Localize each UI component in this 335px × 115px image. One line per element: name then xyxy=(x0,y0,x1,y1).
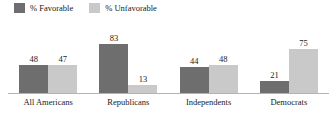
bar-favorable-independents: 44 xyxy=(180,20,209,93)
bar-group-republicans: 83 13 xyxy=(99,20,157,93)
bar-rect xyxy=(128,85,157,93)
chart-legend: % Favorable % Unfavorable xyxy=(14,2,157,14)
bar-rect xyxy=(260,81,289,93)
legend-item-unfavorable: % Unfavorable xyxy=(89,3,157,13)
category-axis-labels: All Americans Republicans Independents D… xyxy=(8,96,329,110)
bar-rect xyxy=(19,65,48,93)
bar-value-label: 48 xyxy=(29,54,38,64)
bar-favorable-republicans: 83 xyxy=(99,20,128,93)
bar-favorable-democrats: 21 xyxy=(260,20,289,93)
bar-value-label: 13 xyxy=(139,74,148,84)
bar-unfavorable-democrats: 75 xyxy=(289,20,318,93)
bar-value-label: 48 xyxy=(219,54,228,64)
bar-rect xyxy=(48,65,77,93)
bar-value-label: 44 xyxy=(190,56,199,66)
unfavorable-swatch-icon xyxy=(89,3,100,13)
bar-rect xyxy=(99,44,128,93)
bar-group-democrats: 21 75 xyxy=(260,20,318,93)
legend-item-favorable: % Favorable xyxy=(14,3,73,13)
bar-value-label: 83 xyxy=(110,33,119,43)
bar-groups: 48 47 83 13 44 xyxy=(8,20,329,93)
bar-rect xyxy=(180,67,209,93)
bar-favorable-all-americans: 48 xyxy=(19,20,48,93)
bar-unfavorable-republicans: 13 xyxy=(128,20,157,93)
bar-chart: % Favorable % Unfavorable 48 47 83 xyxy=(0,0,335,115)
bar-rect xyxy=(289,49,318,93)
favorable-swatch-icon xyxy=(14,3,25,13)
category-label-republicans: Republicans xyxy=(99,96,157,110)
bar-rect xyxy=(209,65,238,93)
bar-group-all-americans: 48 47 xyxy=(19,20,77,93)
category-label-independents: Independents xyxy=(180,96,238,110)
bar-unfavorable-independents: 48 xyxy=(209,20,238,93)
legend-label-unfavorable: % Unfavorable xyxy=(105,3,157,13)
bar-unfavorable-all-americans: 47 xyxy=(48,20,77,93)
bar-value-label: 21 xyxy=(270,70,279,80)
axis-baseline xyxy=(8,93,329,94)
category-label-all-americans: All Americans xyxy=(19,96,77,110)
legend-label-favorable: % Favorable xyxy=(30,3,73,13)
bar-group-independents: 44 48 xyxy=(180,20,238,93)
category-label-democrats: Democrats xyxy=(260,96,318,110)
bar-value-label: 75 xyxy=(299,38,308,48)
plot-area: 48 47 83 13 44 xyxy=(0,20,335,94)
bar-value-label: 47 xyxy=(58,54,67,64)
